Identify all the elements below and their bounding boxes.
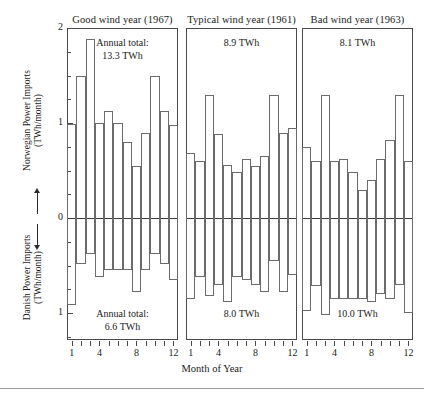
x-tick-label: 12: [401, 347, 415, 358]
bar-norwegian: [113, 123, 122, 218]
bar-norwegian: [376, 159, 385, 218]
x-tick: [255, 341, 256, 346]
bar-danish: [104, 218, 113, 270]
bar-norwegian: [104, 111, 113, 218]
x-tick: [362, 341, 363, 346]
x-tick: [90, 341, 91, 346]
bar-norwegian: [141, 133, 150, 219]
x-tick: [274, 341, 275, 346]
bar-danish: [339, 218, 348, 299]
x-tick: [200, 341, 201, 346]
x-tick-label: 4: [92, 347, 106, 358]
x-tick-label: 1: [300, 347, 314, 358]
x-tick: [155, 341, 156, 346]
bar-danish: [160, 218, 169, 264]
bar-norwegian: [232, 172, 241, 218]
bar-danish: [141, 218, 150, 270]
bar-norwegian: [330, 161, 339, 218]
bar-danish: [330, 218, 339, 299]
x-tick: [191, 341, 192, 346]
bar-norwegian: [251, 166, 260, 218]
x-tick: [136, 341, 137, 346]
bar-norwegian: [223, 165, 232, 218]
panel-annotation-bottom: Annual total:6.6 TWh: [67, 307, 178, 333]
bar-norwegian: [269, 95, 278, 219]
bar-norwegian: [260, 156, 269, 218]
x-tick: [99, 341, 100, 346]
up-arrow-icon: [33, 188, 42, 214]
x-tick: [381, 341, 382, 346]
bar-norwegian: [311, 161, 320, 218]
x-tick: [292, 341, 293, 346]
bar-danish: [348, 218, 357, 299]
bar-norwegian: [339, 159, 348, 218]
bar-norwegian: [95, 123, 104, 218]
x-tick: [316, 341, 317, 346]
y-tick-label: 1: [47, 306, 63, 317]
x-axis-label: Month of Year: [0, 363, 424, 374]
annotation-top-line2: 13.3 TWh: [67, 49, 178, 62]
x-tick-label: 12: [285, 347, 299, 358]
annotation-top-line1: Annual total:: [67, 36, 178, 49]
bar-norwegian: [404, 161, 413, 218]
annotation-bottom-line2: 6.6 TWh: [67, 320, 178, 333]
panel-annotation-top: Annual total:13.3 TWh: [67, 36, 178, 62]
panel-title: Bad wind year (1963): [298, 14, 417, 25]
x-tick: [353, 341, 354, 346]
panel-annotation-bottom: 8.0 TWh: [186, 307, 297, 320]
panel-title: Good wind year (1967): [63, 14, 182, 25]
y-tick-label: 1: [47, 116, 63, 127]
x-tick: [390, 341, 391, 346]
x-tick: [173, 341, 174, 346]
x-tick-label: 4: [211, 347, 225, 358]
x-tick: [334, 341, 335, 346]
x-tick: [399, 341, 400, 346]
bar-danish: [169, 218, 178, 280]
bar-danish: [195, 218, 204, 277]
x-tick: [371, 341, 372, 346]
x-tick: [209, 341, 210, 346]
annotation-top-line2: 8.9 TWh: [186, 36, 297, 49]
x-tick: [164, 341, 165, 346]
bar-danish: [67, 218, 76, 305]
bar-danish: [123, 218, 132, 270]
x-tick: [72, 341, 73, 346]
bar-norwegian: [302, 147, 311, 218]
x-tick: [408, 341, 409, 346]
annotation-bottom-line2: 8.0 TWh: [186, 307, 297, 320]
bar-norwegian: [123, 142, 132, 218]
bar-norwegian: [195, 161, 204, 218]
y-axis-label-norwegian: Norwegian Power Imports(TWh/month): [22, 28, 44, 213]
bar-danish: [385, 218, 394, 299]
x-tick-label: 1: [184, 347, 198, 358]
bar-norwegian: [348, 172, 357, 218]
bar-norwegian: [395, 95, 404, 219]
bar-danish: [86, 218, 95, 254]
panel-annotation-top: 8.1 TWh: [302, 36, 413, 49]
bar-norwegian: [214, 134, 223, 218]
x-tick: [228, 341, 229, 346]
bar-danish: [205, 218, 214, 296]
bar-danish: [358, 218, 367, 299]
bar-danish: [395, 218, 404, 285]
bar-danish: [95, 218, 104, 277]
bar-danish: [214, 218, 223, 285]
x-tick: [237, 341, 238, 346]
bar-norwegian: [279, 133, 288, 219]
panel-annotation-top: 8.9 TWh: [186, 36, 297, 49]
bar-norwegian: [321, 95, 330, 219]
bar-danish: [251, 218, 260, 285]
bar-norwegian: [186, 153, 195, 218]
x-tick: [283, 341, 284, 346]
x-tick-label: 1: [65, 347, 79, 358]
bar-danish: [404, 218, 413, 313]
panel-annotation-bottom: 10.0 TWh: [302, 307, 413, 320]
bar-danish: [269, 218, 278, 261]
x-tick: [265, 341, 266, 346]
bar-danish: [150, 218, 159, 254]
y-tick-label: 0: [47, 211, 63, 222]
bar-danish: [242, 218, 251, 280]
bar-norwegian: [385, 140, 394, 218]
bar-danish: [186, 218, 195, 299]
down-arrow-icon: [33, 224, 42, 250]
